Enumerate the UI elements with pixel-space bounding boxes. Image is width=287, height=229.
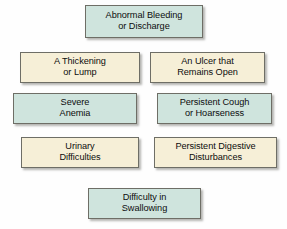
sign-box-abnormal-bleeding-or-discharge: Abnormal Bleeding or Discharge <box>85 5 203 38</box>
warning-signs-diagram: Abnormal Bleeding or Discharge A Thicken… <box>0 0 287 229</box>
sign-box-difficulty-in-swallowing: Difficulty in Swallowing <box>88 188 201 219</box>
sign-box-an-ulcer-that-remains-open: An Ulcer that Remains Open <box>150 52 265 83</box>
sign-box-a-thickening-or-lump: A Thickening or Lump <box>20 52 140 83</box>
sign-box-label: An Ulcer that Remains Open <box>177 56 238 78</box>
sign-box-persistent-digestive-disturbances: Persistent Digestive Disturbances <box>154 137 277 168</box>
sign-box-label: Persistent Cough or Hoarseness <box>180 97 250 119</box>
sign-box-label: A Thickening or Lump <box>54 56 106 78</box>
sign-box-label: Difficulty in Swallowing <box>122 192 167 214</box>
sign-box-persistent-cough-or-hoarseness: Persistent Cough or Hoarseness <box>157 93 272 124</box>
sign-box-severe-anemia: Severe Anemia <box>13 93 137 124</box>
sign-box-urinary-difficulties: Urinary Difficulties <box>21 137 139 168</box>
sign-box-label: Persistent Digestive Disturbances <box>175 141 255 163</box>
sign-box-label: Abnormal Bleeding or Discharge <box>106 10 183 32</box>
sign-box-label: Severe Anemia <box>60 97 91 119</box>
sign-box-label: Urinary Difficulties <box>59 141 100 163</box>
